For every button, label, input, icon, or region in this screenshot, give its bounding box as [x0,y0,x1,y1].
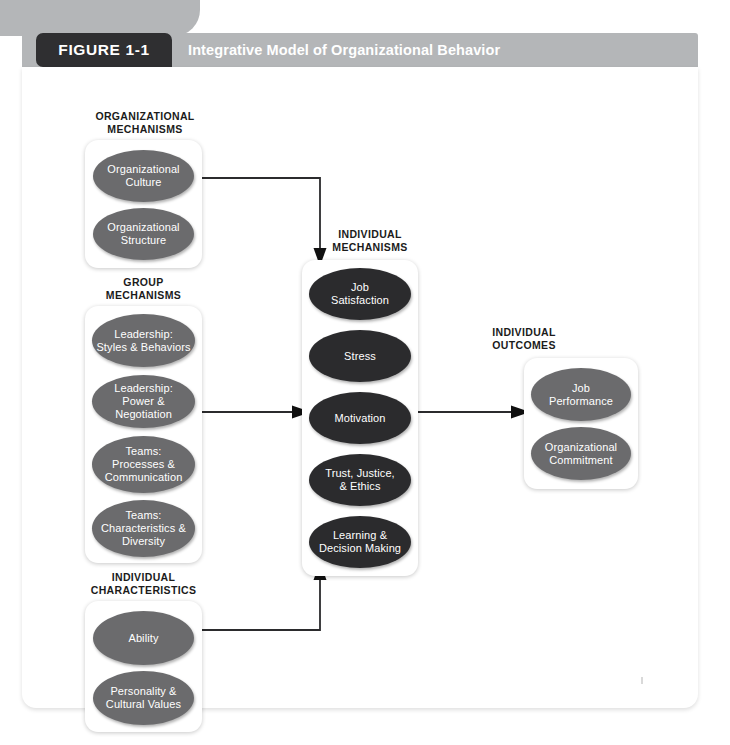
node-teams-processes-communication[interactable]: Teams: Processes & Communication [92,436,195,493]
node-label-line-2: Decision Making [319,542,401,554]
heading-line-1: GROUP [85,276,202,289]
node-label-line-2: Characteristics & [101,522,186,534]
node-label-line-2: Commitment [549,454,612,466]
node-personality-cultural-values[interactable]: Personality & Cultural Values [93,671,194,725]
heading-individual-mechanisms: INDIVIDUAL MECHANISMS [312,228,428,253]
node-label: Organizational Culture [107,163,179,189]
node-label: Job Satisfaction [331,281,389,307]
connector-individual-to-outcomes [418,406,530,419]
heading-line-2: MECHANISMS [85,289,202,302]
node-label-line-3: Communication [105,471,183,483]
node-label-line-1: Organizational [107,163,179,175]
page-mark [641,677,643,684]
node-organizational-culture[interactable]: Organizational Culture [93,150,194,202]
node-label-line-1: Job [572,382,590,394]
node-label: Motivation [334,412,385,425]
figure-number-tab: FIGURE 1-1 [36,33,172,67]
heading-line-2: CHARACTERISTICS [77,584,210,597]
node-label-line-2: & Ethics [339,480,380,492]
heading-line-1: INDIVIDUAL [77,571,210,584]
node-label-line-2: Styles & Behaviors [96,341,190,353]
figure-container: FIGURE 1-1 Integrative Model of Organiza… [22,33,698,708]
node-label-line-1: Personality & [110,685,176,697]
node-teams-characteristics-diversity[interactable]: Teams: Characteristics & Diversity [92,500,195,557]
node-label: Organizational Commitment [545,441,617,467]
node-label-line-2: Performance [549,395,613,407]
node-label: Ability [128,632,158,645]
node-label-line-2: Structure [121,234,167,246]
node-leadership-power-negotiation[interactable]: Leadership: Power & Negotiation [92,375,195,428]
node-label-line-1: Job [351,281,369,293]
heading-line-2: MECHANISMS [85,123,205,136]
node-label: Teams: Processes & Communication [105,445,183,484]
node-trust-justice-ethics[interactable]: Trust, Justice, & Ethics [309,454,411,506]
heading-line-2: OUTCOMES [466,339,582,352]
group-box-individual-characteristics: Ability Personality & Cultural Values [85,601,202,732]
figure-body: ORGANIZATIONAL MECHANISMS Organizational… [22,67,698,708]
heading-line-1: INDIVIDUAL [312,228,428,241]
heading-individual-outcomes: INDIVIDUAL OUTCOMES [466,326,582,351]
node-label: Stress [344,350,376,363]
node-label: Personality & Cultural Values [106,685,181,711]
heading-organizational-mechanisms: ORGANIZATIONAL MECHANISMS [85,110,205,135]
heading-individual-characteristics: INDIVIDUAL CHARACTERISTICS [77,571,210,596]
node-job-satisfaction[interactable]: Job Satisfaction [309,268,411,320]
connector-org-to-individual [202,178,327,266]
node-label-line-1: Trust, Justice, [325,467,395,479]
heading-group-mechanisms: GROUP MECHANISMS [85,276,202,301]
figure-banner: FIGURE 1-1 Integrative Model of Organiza… [22,33,698,67]
node-motivation[interactable]: Motivation [309,392,411,444]
node-label-line-1: Learning & [333,529,387,541]
node-label: Teams: Characteristics & Diversity [101,509,186,548]
node-leadership-styles-behaviors[interactable]: Leadership: Styles & Behaviors [92,314,195,367]
figure-title: Integrative Model of Organizational Beha… [188,33,500,67]
node-stress[interactable]: Stress [309,330,411,382]
node-label-line-1: Organizational [107,221,179,233]
node-label-line-2: Satisfaction [331,294,389,306]
node-label-line-2: Power & Negotiation [115,395,172,420]
node-label-line-1: Leadership: [114,328,173,340]
node-learning-decision-making[interactable]: Learning & Decision Making [309,516,411,568]
node-organizational-structure[interactable]: Organizational Structure [93,208,194,260]
group-box-individual-outcomes: Job Performance Organizational Commitmen… [524,358,638,489]
heading-line-1: ORGANIZATIONAL [85,110,205,123]
node-label: Learning & Decision Making [319,529,401,555]
node-label-line-1: Organizational [545,441,617,453]
node-job-performance[interactable]: Job Performance [531,368,631,421]
node-label: Trust, Justice, & Ethics [325,467,395,493]
node-label-line-2: Culture [125,176,161,188]
figure-number-label: FIGURE 1-1 [58,41,149,59]
node-label-line-2: Processes & [112,458,175,470]
node-ability[interactable]: Ability [93,611,194,665]
connector-group-to-individual [194,406,311,419]
heading-line-1: INDIVIDUAL [466,326,582,339]
node-label-line-3: Diversity [122,535,165,547]
group-box-individual-mechanisms: Job Satisfaction Stress Motivation Trust… [302,260,418,576]
page-corner-decoration [0,0,200,36]
node-label-line-2: Cultural Values [106,698,181,710]
group-box-group-mechanisms: Leadership: Styles & Behaviors Leadershi… [85,306,202,563]
node-label-line-1: Teams: [125,445,161,457]
heading-line-2: MECHANISMS [312,241,428,254]
node-label: Organizational Structure [107,221,179,247]
node-organizational-commitment[interactable]: Organizational Commitment [531,427,631,480]
node-label: Job Performance [549,382,613,408]
node-label: Leadership: Styles & Behaviors [96,328,190,354]
node-label: Leadership: Power & Negotiation [95,382,192,421]
node-label-line-1: Teams: [125,509,161,521]
group-box-organizational-mechanisms: Organizational Culture Organizational St… [85,140,202,268]
node-label-line-1: Leadership: [114,382,173,394]
diagram-canvas: ORGANIZATIONAL MECHANISMS Organizational… [22,67,698,708]
